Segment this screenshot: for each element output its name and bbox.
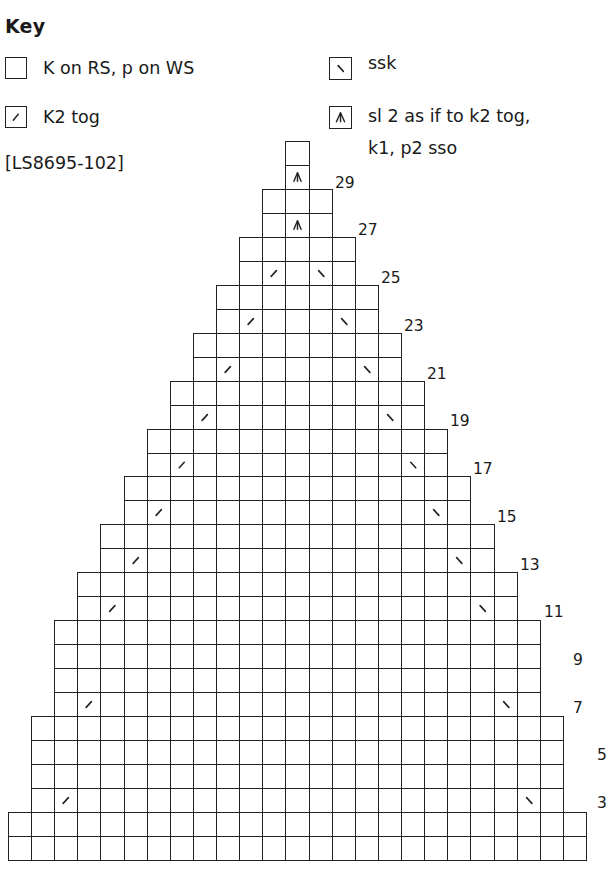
chart-cell <box>216 596 240 621</box>
chart-cell <box>517 764 541 789</box>
row-number-label: 25 <box>381 269 401 287</box>
chart-cell <box>193 836 217 861</box>
chart-cell <box>77 788 101 813</box>
chart-cell <box>285 644 310 669</box>
chart-cell <box>147 500 171 525</box>
chart-cell <box>31 764 55 789</box>
chart-cell <box>100 644 125 669</box>
chart-cell <box>216 692 240 717</box>
chart-cell <box>262 740 286 765</box>
chart-cell <box>285 165 310 190</box>
chart-cell <box>100 548 125 573</box>
chart-cell <box>470 548 495 573</box>
double-decrease-icon <box>286 214 309 237</box>
chart-cell <box>193 548 217 573</box>
chart-cell <box>239 788 263 813</box>
chart-cell <box>262 381 286 406</box>
chart-cell <box>309 596 333 621</box>
chart-cell <box>193 596 217 621</box>
chart-cell <box>424 596 448 621</box>
chart-cell <box>216 716 240 741</box>
chart-cell <box>285 309 310 334</box>
chart-cell <box>309 357 333 382</box>
chart-cell <box>147 644 171 669</box>
chart-cell <box>193 405 217 430</box>
chart-cell <box>470 716 495 741</box>
chart-cell <box>494 668 518 693</box>
chart-cell <box>378 572 402 597</box>
chart-cell <box>355 357 379 382</box>
chart-cell <box>494 620 518 645</box>
chart-cell <box>309 812 333 837</box>
row-number-label: 23 <box>404 317 424 335</box>
ssk-slash-icon <box>471 597 494 620</box>
chart-cell <box>31 812 55 837</box>
chart-cell <box>309 716 333 741</box>
chart-cell <box>401 764 425 789</box>
chart-cell <box>124 476 148 501</box>
chart-cell <box>124 524 148 549</box>
chart-cell <box>239 836 263 861</box>
chart-cell <box>77 716 101 741</box>
chart-cell <box>31 740 55 765</box>
ssk-slash-icon <box>495 693 517 716</box>
chart-cell <box>332 237 356 262</box>
row-number-label: 19 <box>450 412 470 430</box>
chart-cell <box>262 548 286 573</box>
chart-cell <box>401 740 425 765</box>
chart-cell <box>8 836 32 861</box>
chart-cell <box>309 620 333 645</box>
chart-cell <box>285 476 310 501</box>
ssk-slash-icon <box>310 262 332 285</box>
chart-cell <box>147 764 171 789</box>
chart-cell <box>170 596 194 621</box>
chart-cell <box>285 453 310 477</box>
chart-cell <box>147 788 171 813</box>
chart-cell <box>309 572 333 597</box>
chart-cell <box>355 524 379 549</box>
chart-cell <box>447 500 471 525</box>
chart-cell <box>378 596 402 621</box>
chart-cell <box>239 237 263 262</box>
chart-cell <box>193 812 217 837</box>
chart-cell <box>239 309 263 334</box>
chart-cell <box>378 764 402 789</box>
chart-cell <box>378 500 402 525</box>
chart-cell <box>309 309 333 334</box>
chart-cell <box>77 740 101 765</box>
chart-cell <box>193 764 217 789</box>
chart-cell <box>262 716 286 741</box>
chart-cell <box>216 788 240 813</box>
chart-cell <box>332 500 356 525</box>
chart-cell <box>470 620 495 645</box>
chart-cell <box>285 213 310 238</box>
chart-cell <box>239 357 263 382</box>
chart-cell <box>124 716 148 741</box>
chart-cell <box>285 596 310 621</box>
chart-cell <box>262 644 286 669</box>
chart-cell <box>447 692 471 717</box>
chart-cell <box>216 620 240 645</box>
chart-cell <box>309 740 333 765</box>
chart-cell <box>193 429 217 454</box>
chart-cell <box>262 357 286 382</box>
chart-cell <box>193 357 217 382</box>
chart-cell <box>378 668 402 693</box>
chart-cell <box>170 740 194 765</box>
chart-cell <box>193 692 217 717</box>
chart-cell <box>124 812 148 837</box>
chart-cell <box>355 285 379 310</box>
chart-cell <box>124 740 148 765</box>
chart-cell <box>170 453 194 477</box>
chart-cell <box>216 644 240 669</box>
chart-cell <box>540 740 564 765</box>
chart-cell <box>332 740 356 765</box>
k2tog-slash-icon <box>194 406 216 429</box>
chart-cell <box>216 285 240 310</box>
chart-cell <box>239 381 263 406</box>
chart-cell <box>285 285 310 310</box>
chart-cell <box>262 309 286 334</box>
chart-cell <box>77 692 101 717</box>
chart-cell <box>494 764 518 789</box>
chart-cell <box>262 836 286 861</box>
